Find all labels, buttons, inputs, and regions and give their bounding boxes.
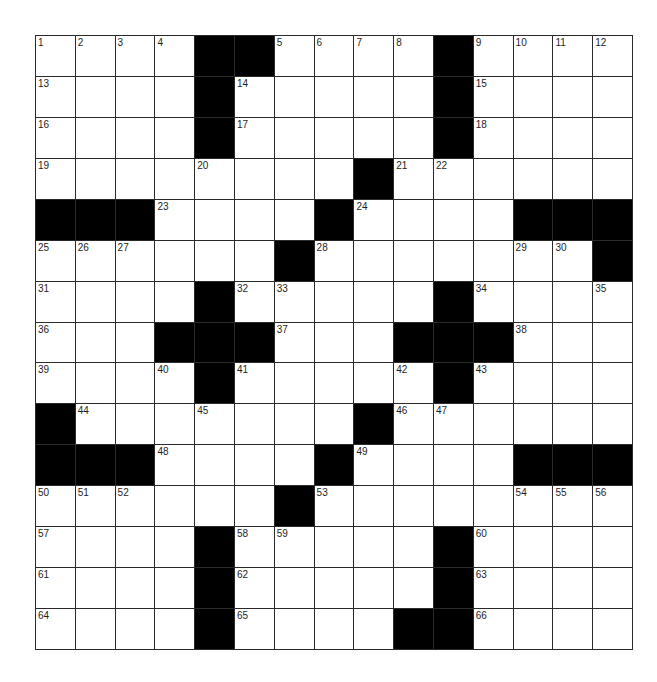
grid-cell[interactable] [354,241,393,281]
grid-cell[interactable] [394,486,433,526]
grid-cell[interactable] [155,527,194,567]
grid-cell[interactable]: 15 [474,77,513,117]
grid-cell[interactable] [76,527,115,567]
grid-cell[interactable] [315,404,354,444]
grid-cell[interactable] [155,77,194,117]
grid-cell[interactable]: 45 [195,404,234,444]
grid-cell[interactable] [553,282,592,322]
grid-cell[interactable] [315,118,354,158]
grid-cell[interactable] [116,363,155,403]
grid-cell[interactable]: 18 [474,118,513,158]
grid-cell[interactable] [275,77,314,117]
grid-cell[interactable] [235,200,274,240]
grid-cell[interactable] [593,363,632,403]
grid-cell[interactable] [514,609,553,649]
grid-cell[interactable] [76,609,115,649]
grid-cell[interactable] [116,77,155,117]
grid-cell[interactable] [354,486,393,526]
grid-cell[interactable] [354,282,393,322]
grid-cell[interactable] [155,568,194,608]
grid-cell[interactable]: 9 [474,36,513,76]
grid-cell[interactable] [275,445,314,485]
grid-cell[interactable]: 13 [36,77,75,117]
grid-cell[interactable]: 66 [474,609,513,649]
grid-cell[interactable] [394,282,433,322]
grid-cell[interactable]: 25 [36,241,75,281]
grid-cell[interactable] [116,323,155,363]
grid-cell[interactable] [553,404,592,444]
grid-cell[interactable] [514,568,553,608]
grid-cell[interactable]: 57 [36,527,75,567]
grid-cell[interactable]: 60 [474,527,513,567]
grid-cell[interactable] [275,159,314,199]
grid-cell[interactable]: 24 [354,200,393,240]
grid-cell[interactable] [474,445,513,485]
grid-cell[interactable]: 12 [593,36,632,76]
grid-cell[interactable] [553,118,592,158]
grid-cell[interactable] [354,609,393,649]
grid-cell[interactable]: 52 [116,486,155,526]
grid-cell[interactable] [76,568,115,608]
grid-cell[interactable] [155,609,194,649]
grid-cell[interactable]: 39 [36,363,75,403]
grid-cell[interactable]: 63 [474,568,513,608]
grid-cell[interactable] [116,568,155,608]
grid-cell[interactable] [354,323,393,363]
grid-cell[interactable] [76,77,115,117]
grid-cell[interactable] [275,200,314,240]
grid-cell[interactable] [474,486,513,526]
grid-cell[interactable] [315,159,354,199]
grid-cell[interactable] [593,159,632,199]
grid-cell[interactable] [315,77,354,117]
grid-cell[interactable]: 19 [36,159,75,199]
grid-cell[interactable]: 3 [116,36,155,76]
grid-cell[interactable]: 7 [354,36,393,76]
grid-cell[interactable] [76,323,115,363]
grid-cell[interactable]: 8 [394,36,433,76]
grid-cell[interactable]: 20 [195,159,234,199]
grid-cell[interactable] [514,118,553,158]
grid-cell[interactable] [514,77,553,117]
grid-cell[interactable]: 49 [354,445,393,485]
grid-cell[interactable] [315,527,354,567]
grid-cell[interactable]: 42 [394,363,433,403]
grid-cell[interactable] [593,404,632,444]
grid-cell[interactable]: 48 [155,445,194,485]
grid-cell[interactable] [593,77,632,117]
grid-cell[interactable] [116,527,155,567]
grid-cell[interactable] [553,77,592,117]
grid-cell[interactable] [155,241,194,281]
grid-cell[interactable]: 22 [434,159,473,199]
grid-cell[interactable]: 62 [235,568,274,608]
grid-cell[interactable] [315,609,354,649]
grid-cell[interactable]: 2 [76,36,115,76]
grid-cell[interactable] [235,486,274,526]
grid-cell[interactable] [195,445,234,485]
grid-cell[interactable] [394,527,433,567]
grid-cell[interactable] [514,159,553,199]
grid-cell[interactable] [235,404,274,444]
grid-cell[interactable]: 51 [76,486,115,526]
grid-cell[interactable] [474,404,513,444]
grid-cell[interactable] [195,241,234,281]
grid-cell[interactable] [116,118,155,158]
grid-cell[interactable]: 1 [36,36,75,76]
grid-cell[interactable] [275,568,314,608]
grid-cell[interactable]: 23 [155,200,194,240]
grid-cell[interactable] [514,404,553,444]
grid-cell[interactable]: 40 [155,363,194,403]
grid-cell[interactable] [514,363,553,403]
grid-cell[interactable] [235,445,274,485]
grid-cell[interactable]: 26 [76,241,115,281]
grid-cell[interactable] [354,77,393,117]
grid-cell[interactable]: 28 [315,241,354,281]
grid-cell[interactable]: 58 [235,527,274,567]
grid-cell[interactable] [394,200,433,240]
grid-cell[interactable] [394,568,433,608]
grid-cell[interactable]: 34 [474,282,513,322]
grid-cell[interactable]: 56 [593,486,632,526]
grid-cell[interactable] [275,363,314,403]
grid-cell[interactable]: 5 [275,36,314,76]
grid-cell[interactable]: 10 [514,36,553,76]
grid-cell[interactable] [434,200,473,240]
